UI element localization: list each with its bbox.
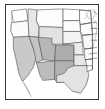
us-choropleth-map[interactable] <box>6 5 98 99</box>
state-mt[interactable] <box>36 9 63 28</box>
state-nd[interactable] <box>63 9 80 21</box>
state-mn[interactable] <box>80 10 92 25</box>
state-co[interactable] <box>55 45 74 61</box>
state-mo[interactable] <box>82 34 92 49</box>
state-or[interactable] <box>11 21 29 38</box>
figure-container <box>0 0 105 109</box>
state-wa[interactable] <box>12 9 29 23</box>
state-ar[interactable] <box>84 48 92 60</box>
map-frame <box>5 4 99 100</box>
state-sd[interactable] <box>63 21 80 32</box>
